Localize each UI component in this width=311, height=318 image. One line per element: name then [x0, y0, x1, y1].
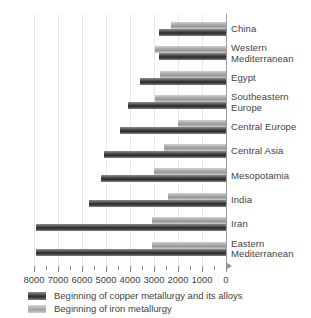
bar-iron [171, 22, 226, 29]
legend-item-copper: Beginning of copper metallurgy and its a… [28, 290, 311, 303]
category-label: SoutheasternEurope [231, 92, 289, 113]
tick-minor [142, 266, 143, 270]
category-label: China [231, 24, 256, 35]
bar-iron [154, 168, 226, 175]
category-label: Iran [231, 219, 248, 230]
horizontal-bar-chart: ChinaWesternMediterraneanEgyptSoutheaste… [0, 0, 311, 318]
category-label-line: Mediterranean [231, 54, 294, 65]
tick-major [226, 266, 227, 272]
bar-iron [155, 95, 226, 102]
tick-label: 6000 [71, 274, 92, 285]
bar-iron [160, 71, 226, 78]
category-label: Central Asia [231, 146, 283, 157]
legend-swatch-iron-icon [28, 305, 46, 313]
category-label-line: Egypt [231, 73, 256, 84]
tick-major [154, 266, 155, 272]
tick-label: 0 [223, 274, 228, 285]
bar-copper [140, 78, 226, 85]
category-label: WesternMediterranean [231, 43, 294, 64]
tick-label: 1000 [191, 274, 212, 285]
bar-iron [152, 217, 226, 224]
tick-major [130, 266, 131, 272]
bar-iron [164, 144, 226, 151]
bar-group [0, 22, 311, 37]
category-label-line: India [231, 195, 252, 206]
bar-group [0, 217, 311, 232]
legend-swatch-copper-icon [28, 292, 46, 300]
bar-iron [168, 193, 226, 200]
tick-label: 5000 [95, 274, 116, 285]
tick-major [58, 266, 59, 272]
bar-iron [155, 46, 226, 53]
tick-minor [118, 266, 119, 270]
tick-major [202, 266, 203, 272]
category-label-line: Europe [231, 103, 289, 114]
category-label: Egypt [231, 73, 256, 84]
bar-copper [128, 102, 226, 109]
category-label-line: Central Europe [231, 122, 296, 133]
tick-minor [214, 266, 215, 270]
tick-label: 7000 [47, 274, 68, 285]
tick-minor [70, 266, 71, 270]
category-label: India [231, 195, 252, 206]
bar-iron [152, 242, 226, 249]
tick-minor [46, 266, 47, 270]
category-label-line: Iran [231, 219, 248, 230]
plot-area: ChinaWesternMediterraneanEgyptSoutheaste… [0, 14, 311, 266]
bar-copper [159, 53, 226, 60]
category-label: EasternMediterranean [231, 239, 294, 260]
bar-copper [36, 249, 226, 256]
tick-major [106, 266, 107, 272]
legend-label-iron: Beginning of iron metallurgy [54, 303, 172, 315]
category-label: Mesopotamia [231, 171, 289, 182]
legend-label-copper: Beginning of copper metallurgy and its a… [54, 290, 243, 302]
bar-group [0, 71, 311, 86]
category-label-line: Mediterranean [231, 249, 294, 260]
category-label-line: Central Asia [231, 146, 283, 157]
bar-iron [178, 120, 226, 127]
legend-item-iron: Beginning of iron metallurgy [28, 303, 311, 316]
tick-major [34, 266, 35, 272]
chart-legend: Beginning of copper metallurgy and its a… [28, 290, 311, 316]
tick-major [178, 266, 179, 272]
bar-copper [36, 224, 226, 231]
bar-copper [104, 151, 226, 158]
tick-minor [94, 266, 95, 270]
bar-copper [159, 29, 226, 36]
category-label-line: China [231, 24, 256, 35]
tick-label: 2000 [167, 274, 188, 285]
tick-minor [190, 266, 191, 270]
bar-copper [89, 200, 226, 207]
tick-minor [166, 266, 167, 270]
tick-label: 8000 [23, 274, 44, 285]
bar-group [0, 193, 311, 208]
x-axis: 800070006000500040003000200010000 [0, 266, 311, 290]
tick-major [82, 266, 83, 272]
bar-copper [101, 175, 226, 182]
category-label: Central Europe [231, 122, 296, 133]
tick-label: 4000 [119, 274, 140, 285]
bar-copper [120, 127, 226, 134]
tick-label: 3000 [143, 274, 164, 285]
category-label-line: Mesopotamia [231, 171, 289, 182]
